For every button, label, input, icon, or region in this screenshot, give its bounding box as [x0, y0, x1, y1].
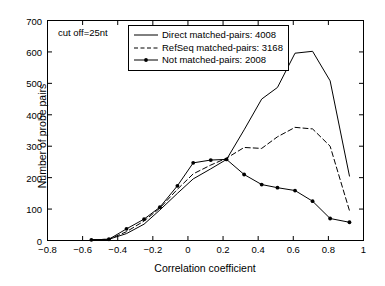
y-tick-label: 0 — [8, 235, 42, 246]
x-tick-label: 0 — [185, 244, 190, 255]
legend-item-0: Direct matched-pairs: 4008 — [133, 29, 283, 42]
chart-legend: Direct matched-pairs: 4008RefSeq matched… — [128, 25, 289, 71]
x-tick-label: 1 — [361, 244, 366, 255]
legend-item-2: Not matched-pairs: 2008 — [133, 54, 283, 67]
series-marker — [260, 183, 264, 187]
series-marker — [191, 161, 195, 165]
legend-line-sample — [133, 29, 159, 41]
series-marker — [176, 184, 180, 188]
legend-item-label: Direct matched-pairs: 4008 — [162, 29, 276, 41]
x-tick-label: −0.4 — [108, 244, 127, 255]
cutoff-annotation: cut off=25nt — [58, 27, 108, 38]
series-marker — [311, 199, 315, 203]
series-line-0 — [91, 51, 349, 240]
series-marker — [209, 158, 213, 162]
x-tick-label: −0.2 — [143, 244, 162, 255]
series-marker — [276, 186, 280, 190]
series-marker — [158, 205, 162, 209]
series-marker — [348, 220, 352, 224]
legend-item-label: Not matched-pairs: 2008 — [162, 54, 266, 66]
series-marker — [107, 237, 111, 241]
legend-line-sample — [133, 54, 159, 66]
x-tick-label: 0.6 — [287, 244, 300, 255]
series-marker — [328, 217, 332, 221]
legend-line-sample — [133, 42, 159, 54]
chart-figure: 0100200300400500600700 −0.8−0.6−0.4−0.20… — [0, 0, 385, 286]
series-marker — [89, 238, 93, 242]
series-marker — [142, 217, 146, 221]
series-marker — [293, 189, 297, 193]
y-axis-title: Number of probe pairs — [36, 56, 48, 216]
y-tick-label: 700 — [8, 15, 42, 26]
x-tick-label: −0.8 — [38, 244, 57, 255]
series-marker — [225, 158, 229, 162]
x-tick-label: 0.4 — [252, 244, 265, 255]
legend-item-label: RefSeq matched-pairs: 3168 — [162, 42, 283, 54]
x-axis-title: Correlation coefficient — [154, 262, 255, 274]
x-tick-label: 0.2 — [216, 244, 229, 255]
data-series-group — [89, 51, 351, 241]
x-tick-label: 0.8 — [322, 244, 335, 255]
series-line-2 — [91, 159, 349, 239]
series-marker — [125, 227, 129, 231]
series-marker — [242, 173, 246, 177]
x-tick-label: −0.6 — [73, 244, 92, 255]
legend-item-1: RefSeq matched-pairs: 3168 — [133, 42, 283, 55]
series-line-1 — [91, 127, 349, 240]
